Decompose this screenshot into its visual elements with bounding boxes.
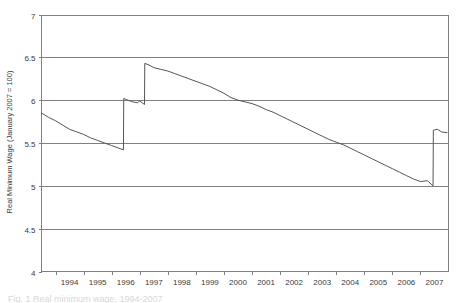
x-tick-label: 2000 (229, 278, 247, 287)
x-tick-label: 2002 (285, 278, 303, 287)
x-tick-label: 2001 (257, 278, 275, 287)
x-tick-label: 1996 (117, 278, 135, 287)
figure-caption: Fig. 1 Real minimum wage, 1994-2007 (8, 294, 454, 303)
x-tick-label: 1995 (89, 278, 107, 287)
y-axis-title: Real Minimum Wage (January 2007 = 100) (5, 70, 14, 213)
x-tick-label: 1994 (61, 278, 79, 287)
x-tick-label: 2004 (341, 278, 359, 287)
x-tick-label: 1999 (201, 278, 219, 287)
figure-container: 44.555.566.57 19941995199619971998199920… (0, 0, 462, 303)
y-tick-label: 7 (31, 12, 36, 21)
y-tick-labels: 44.555.566.57 (24, 12, 36, 278)
x-tick-label: 2003 (313, 278, 331, 287)
x-tick-labels: 1994199519961997199819992000200120022003… (61, 278, 444, 287)
y-tick-label: 6.5 (24, 54, 36, 63)
x-tick-label: 2005 (369, 278, 387, 287)
x-tick-label: 2007 (426, 278, 444, 287)
x-tick-label: 2006 (397, 278, 415, 287)
y-tick-label: 4 (31, 269, 36, 278)
series-line-real-minimum-wage (42, 63, 448, 186)
tick-marks (39, 16, 421, 275)
y-tick-label: 5 (31, 183, 36, 192)
y-tick-label: 4.5 (24, 226, 36, 235)
data-series (42, 63, 448, 186)
gridlines (42, 16, 449, 230)
y-tick-label: 5.5 (24, 140, 36, 149)
x-tick-label: 1997 (145, 278, 163, 287)
y-tick-label: 6 (31, 97, 36, 106)
line-chart: 44.555.566.57 19941995199619971998199920… (0, 0, 462, 303)
x-tick-label: 1998 (173, 278, 191, 287)
